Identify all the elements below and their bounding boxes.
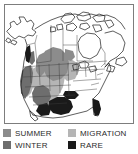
legend-swatch-summer [3, 129, 11, 137]
legend-item-winter: WINTER [3, 139, 68, 151]
legend-label-rare: RARE [80, 141, 103, 150]
legend-label-winter: WINTER [15, 141, 48, 150]
legend-label-summer: SUMMER [15, 129, 52, 138]
legend-item-rare: RARE [68, 139, 136, 151]
legend-label-migration: MIGRATION [80, 129, 127, 138]
range-map-figure: SUMMER MIGRATION WINTER RARE [0, 0, 138, 154]
legend: SUMMER MIGRATION WINTER RARE [3, 127, 136, 152]
legend-swatch-migration [68, 129, 76, 137]
legend-item-summer: SUMMER [3, 127, 68, 139]
legend-item-migration: MIGRATION [68, 127, 136, 139]
north-america-map-svg [5, 5, 133, 123]
legend-swatch-rare [68, 141, 76, 149]
map-panel [4, 4, 134, 124]
legend-swatch-winter [3, 141, 11, 149]
